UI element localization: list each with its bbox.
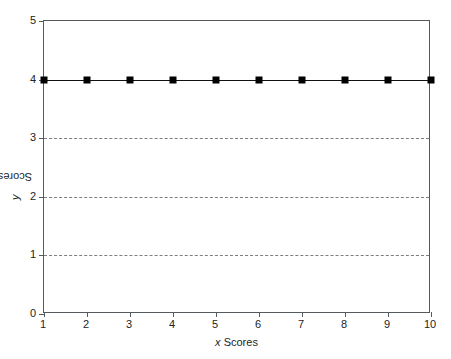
figure-canvas: y Scores 012345 12345678910 x Scores (0, 0, 451, 359)
y-tick-label: 3 (0, 131, 36, 143)
x-axis-tick (87, 312, 88, 317)
x-axis-tick (431, 312, 432, 317)
gridline (44, 255, 429, 256)
x-tick-label: 5 (212, 318, 218, 330)
gridline (44, 138, 429, 139)
y-tick-label: 5 (0, 14, 36, 26)
x-tick-label: 8 (341, 318, 347, 330)
x-axis-tick (173, 312, 174, 317)
data-point-marker (41, 76, 48, 83)
data-point-marker (256, 76, 263, 83)
data-point-marker (342, 76, 349, 83)
x-tick-label-group: 12345678910 (43, 318, 430, 334)
x-tick-label: 2 (83, 318, 89, 330)
data-point-marker (84, 76, 91, 83)
data-point-marker (127, 76, 134, 83)
x-tick-label: 7 (298, 318, 304, 330)
x-tick-label: 3 (126, 318, 132, 330)
x-axis-title: x Scores (43, 336, 430, 348)
y-tick-label: 2 (0, 190, 36, 202)
series-line (44, 80, 429, 81)
y-tick-label: 1 (0, 248, 36, 260)
plot-area (43, 20, 430, 313)
x-axis-tick (302, 312, 303, 317)
data-point-marker (428, 76, 435, 83)
y-axis-tick (39, 197, 44, 198)
x-axis-tick (259, 312, 260, 317)
data-point-marker (170, 76, 177, 83)
x-tick-label: 6 (255, 318, 261, 330)
data-point-marker (213, 76, 220, 83)
data-point-marker (385, 76, 392, 83)
y-axis-tick (39, 21, 44, 22)
x-axis-tick (130, 312, 131, 317)
y-axis-tick (39, 255, 44, 256)
x-axis-tick (345, 312, 346, 317)
y-axis-tick (39, 138, 44, 139)
x-axis-tick (216, 312, 217, 317)
x-tick-label: 9 (384, 318, 390, 330)
x-tick-label: 1 (40, 318, 46, 330)
x-tick-label: 10 (424, 318, 436, 330)
y-tick-label: 4 (0, 73, 36, 85)
x-axis-tick (388, 312, 389, 317)
x-axis-title-text: Scores (221, 336, 258, 348)
y-tick-label: 0 (0, 307, 36, 319)
data-point-marker (299, 76, 306, 83)
x-axis-tick (44, 312, 45, 317)
gridline (44, 197, 429, 198)
x-tick-label: 4 (169, 318, 175, 330)
